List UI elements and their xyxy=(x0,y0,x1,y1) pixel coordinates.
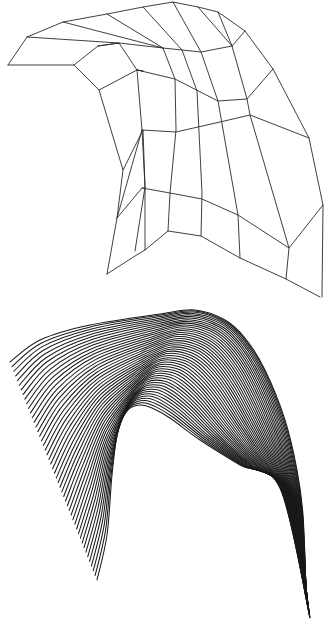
wireframe-mesh-panel xyxy=(0,0,327,300)
iso-curves-panel xyxy=(0,300,327,623)
mesh-edge xyxy=(142,188,323,248)
iso-curve xyxy=(93,400,309,616)
figure xyxy=(0,0,327,623)
mesh-edge xyxy=(142,115,309,138)
mesh-edge xyxy=(107,231,320,297)
mesh-edge xyxy=(99,90,145,251)
mesh-edge xyxy=(8,2,323,297)
mesh-edge xyxy=(117,170,123,218)
mesh-edge xyxy=(137,70,143,71)
mesh-edge xyxy=(27,37,119,43)
mesh-edge xyxy=(198,7,289,279)
mesh-edge xyxy=(107,130,142,274)
mesh-edge xyxy=(98,43,143,71)
mesh-edge xyxy=(74,65,273,101)
mesh-edge xyxy=(137,70,145,250)
mesh-edge xyxy=(8,31,245,65)
